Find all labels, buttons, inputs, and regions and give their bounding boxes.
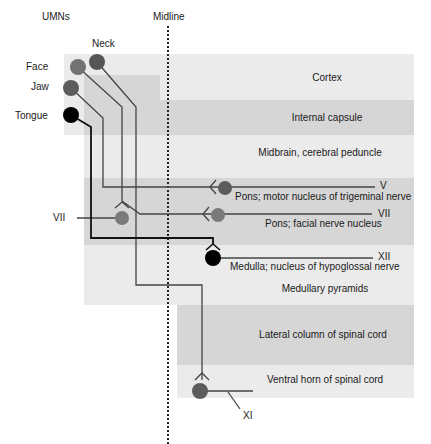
neck-pathway — [97, 62, 202, 380]
synapse-xii — [206, 244, 220, 250]
cortex-label: Cortex — [312, 72, 341, 84]
neck-umn-neuron — [89, 54, 105, 70]
pons-v-label: Pons; motor nucleus of trigeminal nerve — [235, 191, 411, 203]
nerve-xi-label: XI — [243, 410, 252, 422]
face-umn-neuron — [70, 59, 86, 75]
xii-lmn-neuron — [205, 250, 221, 266]
neck-label: Neck — [92, 38, 115, 50]
xi-lmn-neuron — [192, 383, 208, 399]
medulla-xii-label: Medulla; nucleus of hypoglossal nerve — [230, 261, 400, 273]
nerve-vii-right-label: VII — [378, 208, 390, 220]
nerve-xii-label: XII — [378, 251, 390, 263]
jaw-umn-neuron — [63, 80, 79, 96]
jaw-label: Jaw — [31, 81, 49, 93]
internal-capsule-label: Internal capsule — [292, 112, 363, 124]
vii-left-lmn-neuron — [115, 211, 129, 225]
ventral-horn-label: Ventral horn of spinal cord — [267, 374, 383, 386]
vii-right-lmn-neuron — [211, 208, 225, 222]
jaw-pathway — [71, 88, 222, 187]
midbrain-label: Midbrain, cerebral peduncle — [258, 147, 381, 159]
nerve-vii-left-label: VII — [53, 212, 65, 224]
tongue-pathway — [71, 115, 213, 245]
pons-vii-label: Pons; facial nerve nucleus — [265, 218, 382, 230]
face-pathway — [78, 67, 122, 201]
xi-leader — [228, 392, 240, 409]
midline-header: Midline — [153, 11, 185, 23]
v-lmn-neuron — [218, 181, 232, 195]
tongue-umn-neuron — [63, 107, 79, 123]
tongue-label: Tongue — [15, 110, 48, 122]
nerve-v-label: V — [380, 180, 387, 192]
face-label: Face — [26, 61, 48, 73]
umns-header: UMNs — [42, 11, 70, 23]
lateral-column-label: Lateral column of spinal cord — [259, 329, 387, 341]
medullary-pyramids-label: Medullary pyramids — [282, 283, 369, 295]
